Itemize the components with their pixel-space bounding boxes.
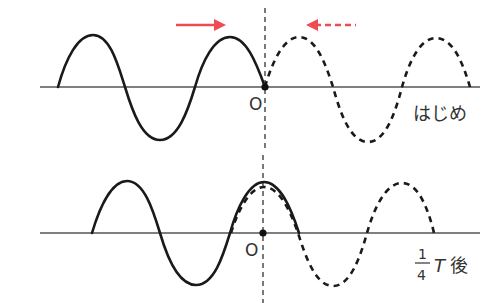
wave-diagram: O はじめ O 1 4 T 後 — [0, 0, 501, 303]
origin-dot — [261, 83, 268, 90]
fraction-numerator: 1 — [418, 246, 427, 262]
panel-initial: O はじめ — [40, 8, 480, 150]
arrow-left-dashed-icon — [306, 19, 356, 31]
period-symbol: T — [434, 255, 447, 276]
label-suffix: 後 — [450, 255, 468, 276]
panel-label-initial: はじめ — [413, 103, 467, 124]
reflected-wave-dashed — [265, 37, 470, 142]
arrow-right-icon — [176, 19, 226, 31]
origin-dot — [259, 229, 266, 236]
origin-label: O — [249, 94, 262, 114]
origin-label: O — [245, 240, 258, 260]
fraction-denominator: 4 — [417, 267, 426, 283]
panel-quarter-period: O 1 4 T 後 — [40, 155, 480, 303]
panel-label-quarter-period: 1 4 T 後 — [415, 246, 468, 283]
